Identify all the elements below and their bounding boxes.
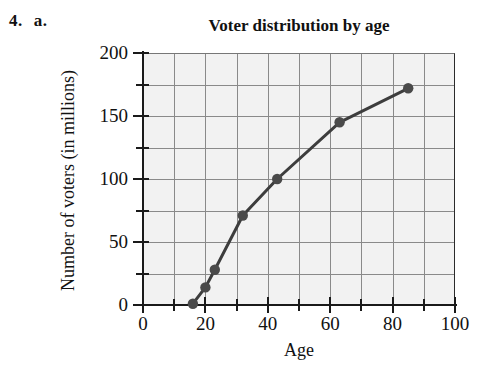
data-series [0,0,485,376]
data-point [210,265,220,275]
data-point [188,299,198,309]
data-point [334,117,344,127]
data-point [403,83,413,93]
data-point [272,174,282,184]
series-markers [188,83,414,309]
data-point [200,282,210,292]
series-line [193,88,408,303]
data-point [238,210,248,220]
figure-container: 4.a. Voter distribution by age Number of… [0,0,485,376]
